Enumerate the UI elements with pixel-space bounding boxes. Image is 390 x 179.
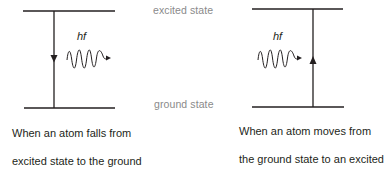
emission-caption: When an atom falls from excited state to…: [12, 112, 142, 179]
photon-energy-label-left: hf: [77, 30, 86, 42]
absorption-diagram: [252, 9, 344, 107]
photon-arrowhead-icon: [106, 56, 111, 61]
caption-line: the ground state to an excited: [239, 152, 384, 166]
caption-line: excited state to the ground: [12, 154, 142, 168]
photon-energy-label-right: hf: [273, 30, 282, 42]
photon-arrowhead-icon: [297, 56, 302, 61]
absorption-caption: When an atom moves from the ground state…: [239, 110, 384, 179]
emission-diagram: [23, 11, 115, 108]
arrow-up-icon: [310, 56, 317, 64]
excited-state-label: excited state: [153, 4, 213, 16]
caption-line: When an atom falls from: [12, 126, 142, 140]
caption-line: When an atom moves from: [239, 124, 384, 138]
photon-wave-icon: [67, 50, 108, 68]
ground-state-label: ground state: [154, 98, 214, 110]
photon-wave-icon: [258, 50, 299, 68]
arrow-down-icon: [51, 55, 58, 63]
